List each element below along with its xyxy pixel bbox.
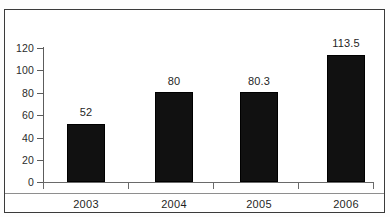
y-tick-label: 40 (4, 132, 34, 144)
x-category-label-2005: 2005 (229, 198, 289, 210)
bar-2004 (155, 92, 193, 182)
y-tick-label: 120 (4, 42, 34, 54)
bar-chart-figure: 120 100 80 60 40 20 0 52 80 80.3 113.5 2… (0, 0, 390, 217)
y-tick-mark (37, 115, 43, 116)
y-tick-mark (37, 160, 43, 161)
y-tick-mark (37, 48, 43, 49)
x-tick-mark (43, 183, 44, 189)
y-tick-mark (37, 93, 43, 94)
x-category-label-2004: 2004 (144, 198, 204, 210)
x-category-label-2006: 2006 (316, 198, 376, 210)
x-axis-line (43, 182, 374, 184)
bar-value-label-2006: 113.5 (316, 37, 376, 49)
bar-2005 (240, 92, 278, 182)
y-tick-label: 20 (4, 154, 34, 166)
y-tick-label: 80 (4, 87, 34, 99)
axis-separator-line (5, 193, 384, 194)
bar-2003 (67, 124, 105, 182)
y-tick-label: 0 (4, 176, 34, 188)
y-axis-line (43, 47, 44, 183)
bar-value-label-2003: 52 (56, 106, 116, 118)
bar-2006 (327, 55, 365, 182)
x-tick-mark (128, 183, 129, 189)
y-axis-tick-labels: 120 100 80 60 40 20 0 (0, 0, 34, 217)
x-tick-mark (373, 183, 374, 189)
x-category-label-2003: 2003 (56, 198, 116, 210)
y-tick-label: 60 (4, 109, 34, 121)
y-tick-label: 100 (4, 64, 34, 76)
y-tick-mark (37, 138, 43, 139)
x-tick-mark (298, 183, 299, 189)
bar-value-label-2005: 80.3 (229, 75, 289, 87)
bar-value-label-2004: 80 (144, 75, 204, 87)
x-tick-mark (213, 183, 214, 189)
y-tick-mark (37, 70, 43, 71)
